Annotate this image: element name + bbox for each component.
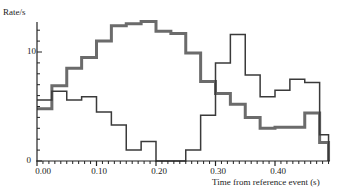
x-tick-label-2: 0.20 xyxy=(151,166,167,176)
axes: 0 10 0.00 0.10 0.20 0.30 0.40 Time from … xyxy=(27,22,331,187)
y-tick-label-10: 10 xyxy=(27,46,37,56)
x-axis-label: Time from reference event (s) xyxy=(212,177,320,187)
series-thin-dark xyxy=(37,35,329,161)
x-tick-label-4: 0.40 xyxy=(270,166,286,176)
series-thick-gray xyxy=(37,21,329,161)
x-tick-label-0: 0.00 xyxy=(35,166,51,176)
plot-series xyxy=(37,21,329,161)
x-tick-label-3: 0.30 xyxy=(210,166,226,176)
y-axis-label: Rate/s xyxy=(3,7,26,17)
rate-histogram-chart: Rate/s 0 10 0.00 0.10 0.20 0.30 0.40 Tim… xyxy=(0,0,341,192)
x-tick-label-1: 0.10 xyxy=(91,166,107,176)
y-ticks xyxy=(37,30,42,161)
y-tick-label-0: 0 xyxy=(27,155,32,165)
